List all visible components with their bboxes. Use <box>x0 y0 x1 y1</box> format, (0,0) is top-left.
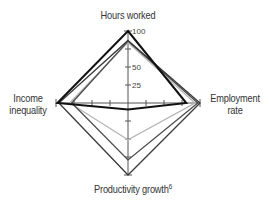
axis-label-hours-worked: Hours worked <box>93 9 163 21</box>
axis-label-employment-rate: Employment rate <box>206 92 264 116</box>
footnote-marker: 6 <box>169 183 172 190</box>
tick-label-25: 25 <box>132 81 141 90</box>
axis-label-income-line1: Income <box>3 92 52 104</box>
tick-labels: 100 50 25 <box>132 27 146 90</box>
series-polygon-2 <box>59 40 200 175</box>
axis-label-employment-line1: Employment <box>206 92 264 104</box>
tick-label-50: 50 <box>132 63 141 72</box>
series-polygon-3 <box>72 41 198 160</box>
tick-label-100: 100 <box>132 27 146 36</box>
axis-label-productivity-text: Productivity growth <box>94 183 169 195</box>
axis-label-income-line2: inequality <box>3 104 52 116</box>
axis-label-employment-line2: rate <box>206 104 264 116</box>
axis-label-income-inequality: Income inequality <box>3 92 52 116</box>
axis-label-productivity-growth: Productivity growth6 <box>85 181 182 195</box>
